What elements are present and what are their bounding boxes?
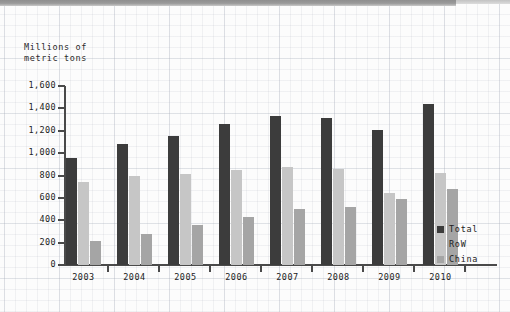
x-axis-tick [107,266,109,272]
y-axis-tick-label: 800 [4,170,56,180]
bar-total-2010[interactable] [423,104,434,265]
bar-china-2003[interactable] [90,241,101,265]
bar-china-2005[interactable] [192,225,203,265]
y-axis-tick-label-wrap: 400 [0,214,56,225]
bar-total-2009[interactable] [372,130,383,265]
y-axis-tick [58,175,65,177]
x-axis-label-2008: 2008 [317,272,360,282]
y-axis-tick-label: 1,000 [4,147,56,157]
y-axis-tick-label: 1,400 [4,102,56,112]
bar-total-2003[interactable] [66,158,77,265]
legend-swatch-row [437,241,444,248]
y-axis-tick-label-wrap: 1,400 [0,102,56,113]
bar-group [219,85,270,265]
y-axis-tick-label-wrap: 1,200 [0,125,56,136]
x-axis-label-2009: 2009 [368,272,411,282]
x-axis-tick [158,266,160,272]
y-axis-tick [58,197,65,199]
bar-row-2004[interactable] [129,176,140,265]
x-axis-label-2003: 2003 [62,272,105,282]
bar-group [372,85,423,265]
y-axis-tick-label-wrap: 1,600 [0,80,56,91]
bar-total-2006[interactable] [219,124,230,265]
y-axis-title-line1: Millions of [24,42,87,52]
bar-china-2008[interactable] [345,207,356,265]
legend-swatch-total [437,226,444,233]
y-axis-tick [58,152,65,154]
y-axis-tick-label: 1,600 [4,80,56,90]
bar-group [321,85,372,265]
legend-item-row[interactable]: RoW [437,237,507,251]
y-axis-tick-label: 0 [4,259,56,269]
bar-row-2007[interactable] [282,167,293,265]
y-axis-tick-label: 600 [4,192,56,202]
x-axis-label-2007: 2007 [266,272,309,282]
legend-item-total[interactable]: Total [437,222,507,236]
x-axis-label-2006: 2006 [215,272,258,282]
bar-china-2006[interactable] [243,217,254,265]
bar-group [117,85,168,265]
bar-total-2005[interactable] [168,136,179,265]
chart-screenshot: Millions of metric tons 02004006008001,0… [0,0,510,312]
chart-legend: TotalRoWChina [437,222,507,267]
y-axis-tick-label-wrap: 1,000 [0,147,56,158]
y-axis-tick-label-wrap: 800 [0,170,56,181]
x-axis-label-2004: 2004 [113,272,156,282]
y-axis-tick [58,242,65,244]
y-axis-tick [58,107,65,109]
legend-label-row: RoW [449,239,466,249]
legend-label-china: China [449,254,478,264]
bar-row-2008[interactable] [333,169,344,265]
x-axis-tick [209,266,211,272]
y-axis-tick [58,130,65,132]
y-axis-title-line2: metric tons [24,53,87,63]
bar-row-2005[interactable] [180,174,191,265]
y-axis-tick-label: 200 [4,237,56,247]
bar-group [270,85,321,265]
bar-total-2004[interactable] [117,144,128,265]
y-axis-tick-label-wrap: 600 [0,192,56,203]
y-axis-tick-label: 400 [4,214,56,224]
legend-label-total: Total [449,224,478,234]
bar-total-2008[interactable] [321,118,332,265]
x-axis-tick [260,266,262,272]
y-axis-tick-label: 1,200 [4,125,56,135]
x-axis-tick [413,266,415,272]
y-axis-title: Millions of metric tons [24,42,87,64]
bar-chart-plot: Millions of metric tons 02004006008001,0… [0,0,510,312]
legend-swatch-china [437,256,444,263]
bar-row-2006[interactable] [231,170,242,265]
x-axis-label-2005: 2005 [164,272,207,282]
bar-group [168,85,219,265]
bar-row-2003[interactable] [78,182,89,265]
y-axis-tick-label-wrap: 200 [0,237,56,248]
bar-total-2007[interactable] [270,116,281,265]
y-axis-tick [58,85,65,87]
x-axis-tick [311,266,313,272]
bar-group [66,85,117,265]
y-axis-tick [58,219,65,221]
x-axis-tick [362,266,364,272]
bar-china-2004[interactable] [141,234,152,265]
bar-china-2009[interactable] [396,199,407,265]
y-axis-tick-label-wrap: 0 [0,259,56,270]
bar-china-2007[interactable] [294,209,305,265]
bar-row-2009[interactable] [384,193,395,265]
legend-item-china[interactable]: China [437,252,507,266]
y-axis-tick [58,264,65,266]
x-axis-label-2010: 2010 [419,272,462,282]
